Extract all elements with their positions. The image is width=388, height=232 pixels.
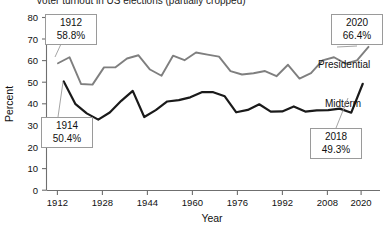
x-tick-1992: 1992: [272, 197, 293, 208]
x-tick-1944: 1944: [137, 197, 158, 208]
x-tick-1976: 1976: [227, 197, 248, 208]
y-tick-20: 20: [27, 142, 38, 153]
y-tick-30: 30: [27, 120, 38, 131]
x-axis-ticks: [57, 191, 361, 196]
y-axis-tick-labels: 80 70 60 50 40 30 20 10 0: [27, 12, 38, 196]
callout-1912-presidential: 1912 58.8%: [46, 15, 97, 58]
y-axis-title: Percent: [3, 86, 15, 122]
callout-1912-value: 58.8%: [57, 30, 85, 41]
series-label-presidential: Presidential: [318, 59, 370, 70]
turnout-line-chart: 80 70 60 50 40 30 20 10 0 Percent 1912 1…: [0, 0, 388, 232]
series-line-midterm: [64, 81, 363, 119]
callout-2018-value: 49.3%: [322, 144, 350, 155]
x-axis-tick-labels: 1912 1928 1944 1960 1976 1992 2008 2020: [47, 197, 372, 208]
callout-1914-midterm: 1914 50.4%: [42, 82, 93, 148]
x-tick-1912: 1912: [47, 197, 68, 208]
callout-2020-value: 66.4%: [343, 30, 371, 41]
y-tick-10: 10: [27, 163, 38, 174]
chart-title-cropped: Voter turnout in US elections (partially…: [36, 0, 336, 7]
y-tick-50: 50: [27, 77, 38, 88]
y-tick-0: 0: [33, 185, 38, 196]
callout-1914-value: 50.4%: [53, 133, 81, 144]
x-tick-2020: 2020: [351, 197, 372, 208]
chart-container: Voter turnout in US elections (partially…: [0, 0, 388, 232]
y-tick-60: 60: [27, 55, 38, 66]
y-tick-40: 40: [27, 98, 38, 109]
chart-title-text: Voter turnout in US elections (partially…: [36, 0, 336, 6]
callout-2020-presidential: 2020 66.4%: [332, 15, 383, 48]
callout-1914-year: 1914: [56, 120, 79, 131]
series-label-midterm: Midterm: [325, 98, 361, 109]
x-axis-title: Year: [201, 212, 223, 224]
callout-2018-year: 2018: [325, 131, 348, 142]
callout-1912-year: 1912: [60, 17, 83, 28]
callout-2020-year: 2020: [346, 17, 369, 28]
y-tick-70: 70: [27, 34, 38, 45]
x-tick-1960: 1960: [182, 197, 203, 208]
y-tick-80: 80: [27, 12, 38, 23]
x-tick-1928: 1928: [92, 197, 113, 208]
x-tick-2008: 2008: [317, 197, 338, 208]
